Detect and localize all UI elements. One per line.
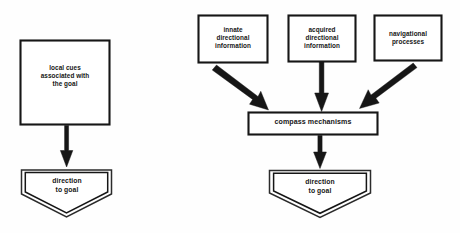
arrow-innate-to-compass xyxy=(212,65,268,110)
node-acquired-directional-information xyxy=(289,16,356,62)
navigational-box-outline xyxy=(375,16,442,61)
node-compass-mechanisms xyxy=(249,113,378,135)
arrow-compass-to-direction xyxy=(314,136,327,169)
arrow-shaft-and-head xyxy=(60,126,72,168)
node-direction-to-goal-right xyxy=(270,171,371,218)
pentagon-left-inner-outline xyxy=(25,173,107,213)
node-navigational-processes xyxy=(375,16,442,61)
diagram-canvas: local cues associated with the goal dire… xyxy=(0,0,460,233)
local-cues-box-outline xyxy=(21,41,110,125)
arrow-navigational-to-compass xyxy=(360,63,418,109)
arrow-acquired-to-compass xyxy=(315,62,329,112)
diagram-vector-layer xyxy=(0,0,460,233)
arrow-local-cues-to-direction xyxy=(60,126,72,168)
innate-box-outline xyxy=(199,16,268,63)
node-local-cues xyxy=(21,41,110,125)
node-direction-to-goal-left xyxy=(22,170,112,217)
arrow-shaft-and-head xyxy=(314,136,327,169)
acquired-box-outline xyxy=(289,16,356,62)
arrow-shaft-and-head xyxy=(212,65,268,110)
node-innate-directional-information xyxy=(199,16,268,63)
arrow-shaft-and-head xyxy=(315,62,329,112)
pentagon-right-inner-outline xyxy=(274,173,367,213)
arrow-shaft-and-head xyxy=(360,63,418,109)
compass-mechanisms-box-outline xyxy=(249,113,378,135)
